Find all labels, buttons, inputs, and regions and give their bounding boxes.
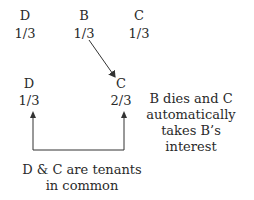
top-c-share: 1/3 [124, 26, 154, 41]
tenancy-note: D & C are tenants in common [20, 162, 144, 194]
transfer-arrow [89, 40, 115, 77]
top-b-share: 1/3 [69, 26, 99, 41]
survivorship-note: B dies and C automatically takes B’s int… [136, 91, 246, 155]
bottom-d-label: D [22, 76, 36, 91]
tenancy-bracket [33, 115, 124, 150]
top-c-label: C [132, 8, 146, 23]
bottom-d-share: 1/3 [14, 93, 44, 108]
top-d-share: 1/3 [10, 26, 40, 41]
bottom-c-label: C [114, 76, 128, 91]
bottom-c-share: 2/3 [106, 93, 136, 108]
arrow-up-d [30, 111, 36, 118]
top-b-label: B [77, 8, 91, 23]
top-d-label: D [18, 8, 32, 23]
arrow-up-c [121, 111, 127, 118]
